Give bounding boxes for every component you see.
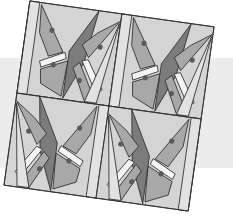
- quilt-diagram: [0, 0, 233, 216]
- quilt-block: [4, 1, 214, 211]
- quilt-unit-bottom-left: [4, 93, 109, 198]
- quilt-unit-bottom-right: [96, 106, 201, 211]
- quilt-unit-top-right: [109, 14, 214, 119]
- quilt-unit-top-left: [17, 1, 122, 106]
